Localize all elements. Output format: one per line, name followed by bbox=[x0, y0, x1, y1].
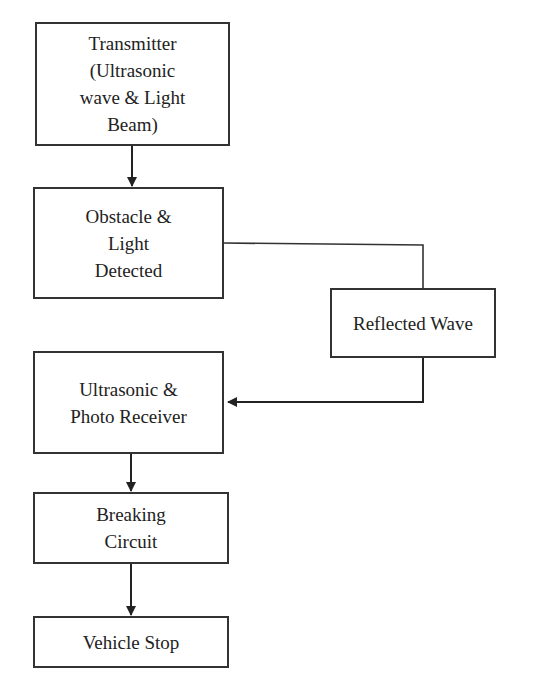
node-label: Ultrasonic & Photo Receiver bbox=[70, 376, 187, 430]
line-obstacle-to-reflected bbox=[223, 243, 423, 288]
node-breaking-circuit: Breaking Circuit bbox=[33, 492, 229, 564]
node-label: Obstacle & Light Detected bbox=[85, 203, 171, 284]
node-label: Breaking Circuit bbox=[96, 501, 166, 555]
node-transmitter: Transmitter (Ultrasonic wave & Light Bea… bbox=[35, 22, 230, 146]
arrow-reflected-to-receiver bbox=[228, 357, 423, 402]
node-receiver: Ultrasonic & Photo Receiver bbox=[33, 351, 224, 454]
node-reflected-wave: Reflected Wave bbox=[330, 288, 496, 358]
node-vehicle-stop: Vehicle Stop bbox=[33, 616, 229, 668]
node-label: Vehicle Stop bbox=[83, 629, 180, 656]
node-label: Transmitter (Ultrasonic wave & Light Bea… bbox=[80, 30, 186, 138]
node-label: Reflected Wave bbox=[353, 310, 473, 337]
node-obstacle-detected: Obstacle & Light Detected bbox=[33, 187, 224, 299]
